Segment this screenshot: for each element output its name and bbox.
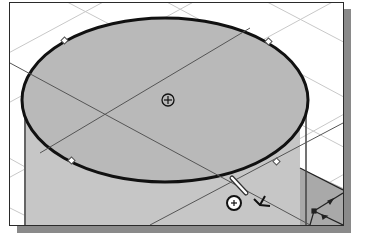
graphics-viewport[interactable]: Cylinder top face selected with center m… — [9, 2, 344, 226]
snap-center-icon — [227, 196, 241, 210]
cad-scene — [10, 3, 343, 225]
